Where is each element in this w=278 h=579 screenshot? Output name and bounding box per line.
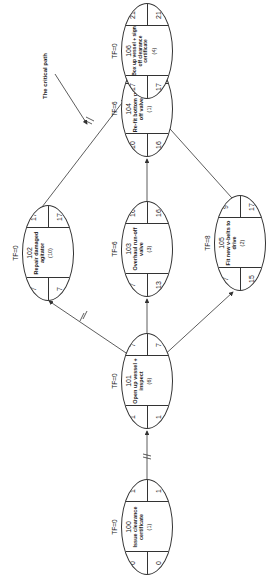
node-102: TF=0 7 7 17 17 102Repair damaged agitato…	[22, 205, 74, 301]
activity-description: Fit new v-belts to drive	[225, 218, 237, 268]
latest-start: 7	[56, 281, 63, 297]
node-101: TF=0 1 1 7 7 101Open up vessel + inspect…	[121, 333, 173, 429]
earliest-finish: 1	[129, 483, 136, 499]
total-float: TF=0	[111, 333, 118, 429]
total-float: TF=0	[111, 479, 118, 575]
earliest-start: 7	[30, 281, 37, 297]
activity-duration: (1)	[146, 84, 152, 134]
latest-finish: 17	[248, 199, 255, 215]
latest-start: 16	[155, 137, 162, 153]
latest-finish: 7	[155, 337, 162, 353]
node-100: TF=0 0 0 1 1 100Issue clearance certific…	[121, 479, 173, 575]
activity-description: Repair damaged agitator	[33, 228, 45, 278]
earliest-start: 0	[129, 555, 136, 571]
activity-duration: (6)	[146, 356, 152, 406]
earliest-finish: 17	[30, 209, 37, 225]
latest-finish: 16	[155, 205, 162, 221]
earliest-finish: 9	[222, 199, 229, 215]
activity-duration: (1)	[146, 502, 152, 552]
latest-start: 1	[155, 409, 162, 425]
earliest-start: 10	[129, 137, 136, 153]
latest-start: 0	[155, 555, 162, 571]
activity-duration: (10)	[47, 228, 53, 278]
latest-start: 15	[248, 271, 255, 287]
total-float: TF=6	[111, 61, 118, 157]
earliest-finish: 11	[129, 65, 136, 81]
activity-description: Re-fit bottom run-off valve	[132, 84, 144, 134]
total-float: TF=8	[204, 195, 211, 291]
node-104: TF=6 10 16 11 17 104Re-fit bottom run-of…	[121, 61, 173, 157]
earliest-start: 7	[129, 277, 136, 293]
total-float: TF=6	[111, 201, 118, 297]
activity-duration: (2)	[239, 218, 245, 268]
earliest-start: 7	[222, 271, 229, 287]
latest-finish: 1	[155, 483, 162, 499]
node-105: TF=8 7 15 9 17 105Fit new v-belts to dri…	[214, 195, 266, 291]
activity-description: Overhaul run-off valve	[132, 224, 144, 274]
activity-duration: (3)	[146, 224, 152, 274]
earliest-finish: 7	[129, 337, 136, 353]
latest-start: 13	[155, 277, 162, 293]
critical-path-pointer	[55, 74, 87, 124]
earliest-finish: 10	[129, 205, 136, 221]
latest-finish: 17	[56, 209, 63, 225]
network-diagram: The critical path TF=0 0 0 1 1 100Issue …	[0, 0, 278, 579]
earliest-start: 1	[129, 409, 136, 425]
critical-path-label: The critical path	[42, 53, 48, 99]
node-103: TF=6 7 13 10 16 103Overhaul run-off valv…	[121, 201, 173, 297]
activity-description: Issue clearance certificate	[132, 502, 144, 552]
latest-finish: 17	[155, 65, 162, 81]
activity-description: Open up vessel + inspect	[132, 356, 144, 406]
total-float: TF=0	[12, 205, 19, 301]
